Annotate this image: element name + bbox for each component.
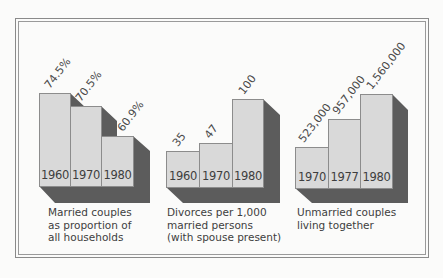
bar-1970: 1970	[295, 147, 329, 189]
bar-1977: 1977	[328, 119, 361, 189]
caption-line: Unmarried couples	[297, 206, 396, 219]
chart-caption: Unmarried couples living together	[297, 206, 396, 231]
bar-year-label: 1977	[329, 170, 360, 184]
caption-line: living together	[297, 219, 396, 232]
bar-1980: 1980	[360, 94, 393, 189]
charts-area: 1960 1970 1980 74.5% 70.5% 60.9% Married…	[0, 0, 443, 278]
bar-year-label: 1980	[361, 170, 392, 184]
bar-year-label: 1970	[296, 170, 328, 184]
